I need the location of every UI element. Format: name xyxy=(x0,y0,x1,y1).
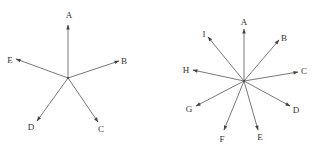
vector-label-c: C xyxy=(301,66,307,76)
vector-arrow-f xyxy=(224,81,244,130)
vector-label-e: E xyxy=(7,55,13,65)
five-vector-star: ABCDE xyxy=(7,10,127,134)
vector-arrow-d xyxy=(37,78,68,121)
vector-label-c: C xyxy=(98,124,104,134)
vector-label-d: D xyxy=(293,105,300,115)
origin-point xyxy=(243,80,245,82)
vector-arrow-c xyxy=(68,78,98,122)
vector-label-e: E xyxy=(257,132,263,142)
vector-label-d: D xyxy=(28,122,35,132)
vector-arrow-e xyxy=(244,81,258,130)
vector-label-a: A xyxy=(66,10,73,20)
vector-arrow-c xyxy=(244,72,298,81)
vector-label-i: I xyxy=(203,29,206,39)
vector-label-b: B xyxy=(121,56,127,66)
vector-label-b: B xyxy=(281,33,287,43)
vector-arrow-g xyxy=(196,81,244,106)
vector-label-f: F xyxy=(219,134,224,144)
vector-arrow-d xyxy=(244,81,290,106)
vector-label-h: H xyxy=(183,65,190,75)
vector-label-a: A xyxy=(241,17,248,27)
origin-point xyxy=(67,77,69,79)
vector-arrow-b xyxy=(68,61,119,78)
nine-vector-star: ABCDEFGHI xyxy=(183,17,307,144)
vector-diagrams: ABCDEABCDEFGHI xyxy=(0,0,314,151)
vector-label-g: G xyxy=(186,104,193,114)
vector-arrow-b xyxy=(244,40,279,81)
vector-arrow-e xyxy=(16,59,68,78)
